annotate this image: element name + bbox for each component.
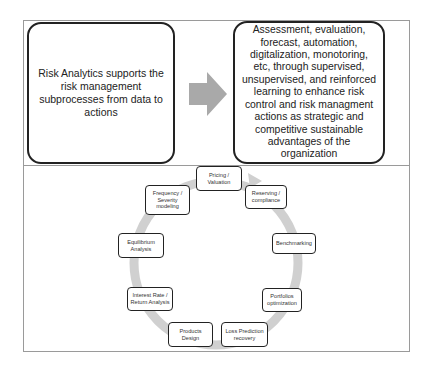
node-frequency-severity-modeling: Frequency / Severity modeling xyxy=(145,185,190,215)
node-products-design: Products Design xyxy=(168,322,213,347)
node-benchmarking: Benchmarking xyxy=(272,233,316,254)
node-interest-rate-return-analysis: Interest Rate / Return Analysis xyxy=(127,287,173,311)
node-reserving-compliance: Reserving / compliance xyxy=(245,185,287,209)
node-loss-prediction-recovery: Loss Prediction recovery xyxy=(221,322,268,347)
node-pricing-valuation: Pricing / Valuation xyxy=(196,166,242,191)
node-portfolios-optimization: Portfolios optimization xyxy=(262,288,302,312)
node-equilibrium-analysis: Equilibrium Analysis xyxy=(118,233,164,258)
